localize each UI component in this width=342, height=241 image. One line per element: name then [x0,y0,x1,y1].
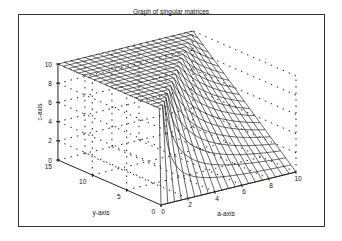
svg-text:8: 8 [48,80,52,87]
svg-text:5: 5 [117,193,121,200]
x-axis-label: a-axis [217,210,235,217]
svg-text:2: 2 [188,201,192,208]
svg-text:6: 6 [242,188,246,195]
svg-text:10: 10 [45,61,53,68]
svg-text:0: 0 [161,208,165,215]
svg-text:6: 6 [48,99,52,106]
surface-mesh [58,31,296,205]
svg-text:15: 15 [45,163,53,170]
svg-text:2: 2 [48,137,52,144]
z-axis-label: c-axis [36,103,43,121]
svg-text:4: 4 [48,118,52,125]
svg-text:0: 0 [151,208,155,215]
surface-plot: 02468100246810051015 a-axis y-axis c-axi… [0,0,342,241]
svg-text:10: 10 [294,175,302,182]
svg-text:8: 8 [269,182,273,189]
svg-text:4: 4 [215,195,219,202]
svg-text:10: 10 [79,178,87,185]
y-axis-label: y-axis [93,209,111,217]
